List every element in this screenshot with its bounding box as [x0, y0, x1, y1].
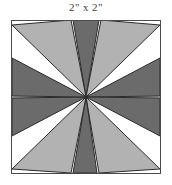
star-block-svg: [11, 20, 161, 174]
star-points-group: [12, 20, 160, 173]
quilt-block-figure: [11, 20, 161, 174]
block-size-label: 2" x 2": [0, 1, 172, 13]
quilt-block-diagram: 2" x 2": [0, 0, 172, 185]
